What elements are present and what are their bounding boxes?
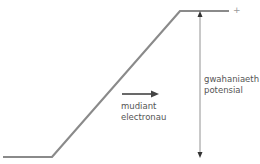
electron-flow-line2: electronau (121, 112, 166, 123)
potential-difference-line1: gwahaniaeth (204, 74, 259, 85)
potential-difference-line2: potensial (204, 85, 259, 96)
electron-flow-label: mudiant electronau (121, 101, 166, 123)
electron-flow-arrow (122, 91, 159, 98)
potential-curve (3, 11, 229, 157)
electron-flow-line1: mudiant (121, 101, 166, 112)
positive-terminal-label: + (233, 6, 241, 15)
potential-difference-arrow (198, 11, 203, 158)
potential-difference-label: gwahaniaeth potensial (204, 74, 259, 96)
